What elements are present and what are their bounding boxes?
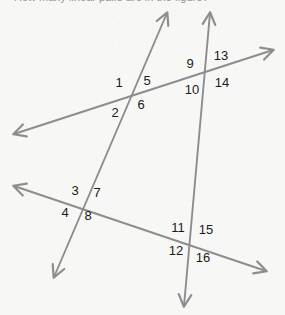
angle-label-7: 7	[93, 186, 100, 199]
lines-group	[14, 13, 273, 306]
angle-label-13: 13	[214, 49, 228, 62]
line-lower-transversal	[14, 186, 266, 271]
line-upper-transversal	[14, 50, 273, 134]
angle-label-15: 15	[199, 223, 213, 236]
angle-label-16: 16	[196, 251, 210, 264]
angle-label-4: 4	[61, 206, 68, 219]
angle-label-9: 9	[186, 57, 193, 70]
angle-label-2: 2	[111, 106, 118, 119]
angle-label-8: 8	[84, 209, 91, 222]
angle-label-12: 12	[169, 244, 183, 257]
geometry-figure: How many linear pairs are in the figure?…	[0, 0, 285, 315]
angle-label-1: 1	[115, 76, 122, 89]
angle-label-14: 14	[215, 76, 229, 89]
angle-label-10: 10	[185, 83, 199, 96]
angle-label-5: 5	[143, 74, 150, 87]
angle-label-6: 6	[137, 98, 144, 111]
four-lines-diagram	[0, 0, 285, 315]
line-left-steep	[54, 13, 167, 277]
angle-label-11: 11	[171, 221, 185, 234]
angle-label-3: 3	[71, 184, 78, 197]
